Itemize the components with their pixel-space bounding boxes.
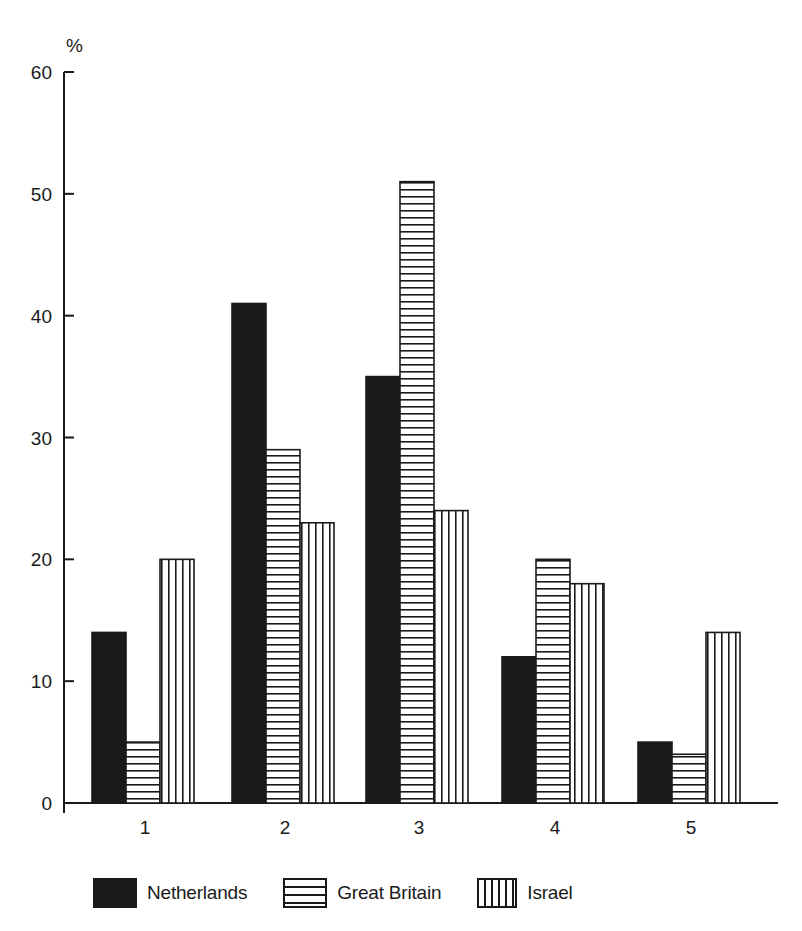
bar-great-britain bbox=[536, 559, 570, 803]
legend-label: Israel bbox=[527, 882, 572, 904]
bar-netherlands bbox=[638, 742, 672, 803]
bar-israel bbox=[160, 559, 194, 803]
bar-great-britain bbox=[266, 450, 300, 803]
legend-item-netherlands: Netherlands bbox=[93, 878, 247, 908]
bar-netherlands bbox=[502, 657, 536, 803]
legend-label: Netherlands bbox=[147, 882, 247, 904]
bar-israel bbox=[300, 523, 334, 803]
legend: Netherlands Great Britain Israel bbox=[93, 878, 609, 908]
y-tick-label: 50 bbox=[31, 184, 52, 205]
legend-item-israel: Israel bbox=[477, 878, 572, 908]
x-axis: 12345 bbox=[64, 803, 778, 838]
bar-netherlands bbox=[366, 377, 400, 803]
legend-label: Great Britain bbox=[337, 882, 441, 904]
bar-great-britain bbox=[400, 182, 434, 803]
legend-item-great-britain: Great Britain bbox=[283, 878, 441, 908]
legend-swatch-vertical-lines-icon bbox=[477, 878, 517, 908]
x-tick-label: 4 bbox=[550, 817, 561, 838]
legend-swatch-solid-icon bbox=[93, 878, 137, 908]
y-axis: %0102030405060 bbox=[31, 35, 83, 814]
y-tick-label: 0 bbox=[41, 793, 52, 814]
x-tick-label: 1 bbox=[140, 817, 151, 838]
bar-netherlands bbox=[232, 303, 266, 803]
bar-chart: %0102030405060 12345 bbox=[0, 0, 802, 860]
x-tick-label: 2 bbox=[280, 817, 291, 838]
bar-great-britain bbox=[126, 742, 160, 803]
bar-israel bbox=[434, 511, 468, 803]
bars bbox=[92, 182, 740, 803]
bar-israel bbox=[570, 584, 604, 803]
y-axis-label: % bbox=[66, 35, 83, 56]
x-tick-label: 3 bbox=[414, 817, 425, 838]
y-tick-label: 10 bbox=[31, 671, 52, 692]
legend-swatch-horizontal-lines-icon bbox=[283, 878, 327, 908]
y-tick-label: 30 bbox=[31, 428, 52, 449]
bar-great-britain bbox=[672, 754, 706, 803]
y-tick-label: 40 bbox=[31, 306, 52, 327]
bar-netherlands bbox=[92, 632, 126, 803]
x-tick-label: 5 bbox=[686, 817, 697, 838]
y-tick-label: 60 bbox=[31, 62, 52, 83]
y-tick-label: 20 bbox=[31, 549, 52, 570]
bar-israel bbox=[706, 632, 740, 803]
